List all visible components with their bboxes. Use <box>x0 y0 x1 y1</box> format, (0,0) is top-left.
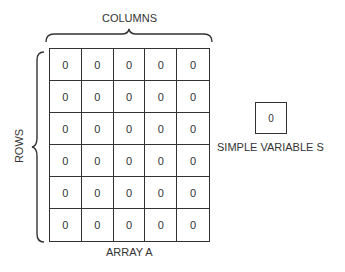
rows-brace-icon <box>30 50 46 244</box>
array-cell: 0 <box>177 49 209 81</box>
array-cell: 0 <box>177 177 209 209</box>
array-cell: 0 <box>145 81 177 113</box>
array-cell: 0 <box>114 209 146 241</box>
array-cell: 0 <box>145 209 177 241</box>
array-cell: 0 <box>82 145 114 177</box>
array-cell: 0 <box>50 145 82 177</box>
array-cell: 0 <box>114 81 146 113</box>
simple-variable-box: 0 <box>255 102 287 134</box>
array-cell: 0 <box>177 209 209 241</box>
array-cell: 0 <box>177 113 209 145</box>
array-a-grid: 000000000000000000000000000000 <box>49 48 210 242</box>
array-cell: 0 <box>114 113 146 145</box>
array-cell: 0 <box>82 113 114 145</box>
array-cell: 0 <box>145 49 177 81</box>
array-cell: 0 <box>50 81 82 113</box>
columns-brace-icon <box>44 28 214 44</box>
array-cell: 0 <box>145 113 177 145</box>
array-cell: 0 <box>82 209 114 241</box>
array-cell: 0 <box>177 145 209 177</box>
array-cell: 0 <box>50 177 82 209</box>
array-cell: 0 <box>114 145 146 177</box>
simple-variable-value: 0 <box>268 113 274 124</box>
columns-label: COLUMNS <box>102 12 157 24</box>
rows-label: ROWS <box>13 129 25 163</box>
array-cell: 0 <box>50 49 82 81</box>
simple-variable-label: SIMPLE VARIABLE S <box>217 141 324 153</box>
array-cell: 0 <box>114 177 146 209</box>
array-cell: 0 <box>114 49 146 81</box>
array-title: ARRAY A <box>106 246 153 258</box>
array-cell: 0 <box>177 81 209 113</box>
array-cell: 0 <box>82 49 114 81</box>
array-cell: 0 <box>82 81 114 113</box>
array-cell: 0 <box>145 177 177 209</box>
array-cell: 0 <box>82 177 114 209</box>
array-cell: 0 <box>50 113 82 145</box>
array-cell: 0 <box>145 145 177 177</box>
array-cell: 0 <box>50 209 82 241</box>
